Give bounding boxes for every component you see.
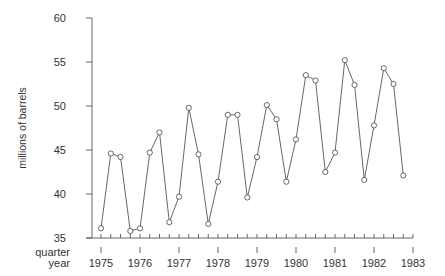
data-point [176, 194, 181, 199]
data-point [225, 112, 230, 117]
x-axis: 197519761977197819791980198119821983 [86, 234, 425, 269]
data-point [274, 117, 279, 122]
x-tick-label: 1976 [128, 257, 152, 269]
y-tick-label: 40 [54, 188, 66, 200]
data-point [196, 152, 201, 157]
data-point [342, 58, 347, 63]
data-point [98, 226, 103, 231]
x-tick-label: 1977 [167, 257, 191, 269]
data-point [108, 151, 113, 156]
y-tick-label: 60 [54, 12, 66, 24]
data-point [245, 195, 250, 200]
y-axis-title: millions of barrels [16, 87, 28, 169]
plot-area [98, 58, 406, 234]
data-point [254, 154, 259, 159]
series-line [101, 60, 403, 231]
data-point [362, 177, 367, 182]
y-tick-label: 50 [54, 100, 66, 112]
x-tick-label: 1980 [284, 257, 308, 269]
x-tick-label: 1979 [245, 257, 269, 269]
data-point [381, 66, 386, 71]
data-point [215, 179, 220, 184]
data-point [371, 123, 376, 128]
data-point [303, 73, 308, 78]
y-axis: 354045505560 [54, 12, 92, 244]
data-point [332, 150, 337, 155]
data-point [264, 103, 269, 108]
x-tick-label: 1975 [89, 257, 113, 269]
data-point [167, 220, 172, 225]
data-point [128, 228, 133, 233]
y-tick-label: 55 [54, 56, 66, 68]
data-point [293, 137, 298, 142]
data-point [323, 169, 328, 174]
data-point [352, 82, 357, 87]
data-point [137, 226, 142, 231]
data-point [391, 81, 396, 86]
y-tick-label: 45 [54, 144, 66, 156]
data-point [186, 105, 191, 110]
line-chart: 354045505560 197519761977197819791980198… [0, 0, 445, 276]
data-point [157, 130, 162, 135]
data-markers [98, 58, 406, 234]
data-point [206, 221, 211, 226]
x-axis-row-label-year: year [49, 257, 71, 269]
x-tick-label: 1982 [362, 257, 386, 269]
data-point [147, 150, 152, 155]
data-point [401, 173, 406, 178]
x-tick-label: 1981 [323, 257, 347, 269]
data-point [313, 78, 318, 83]
y-tick-label: 35 [54, 232, 66, 244]
x-tick-label: 1978 [206, 257, 230, 269]
data-point [284, 179, 289, 184]
x-tick-label: 1983 [401, 257, 425, 269]
data-point [235, 112, 240, 117]
data-point [118, 154, 123, 159]
